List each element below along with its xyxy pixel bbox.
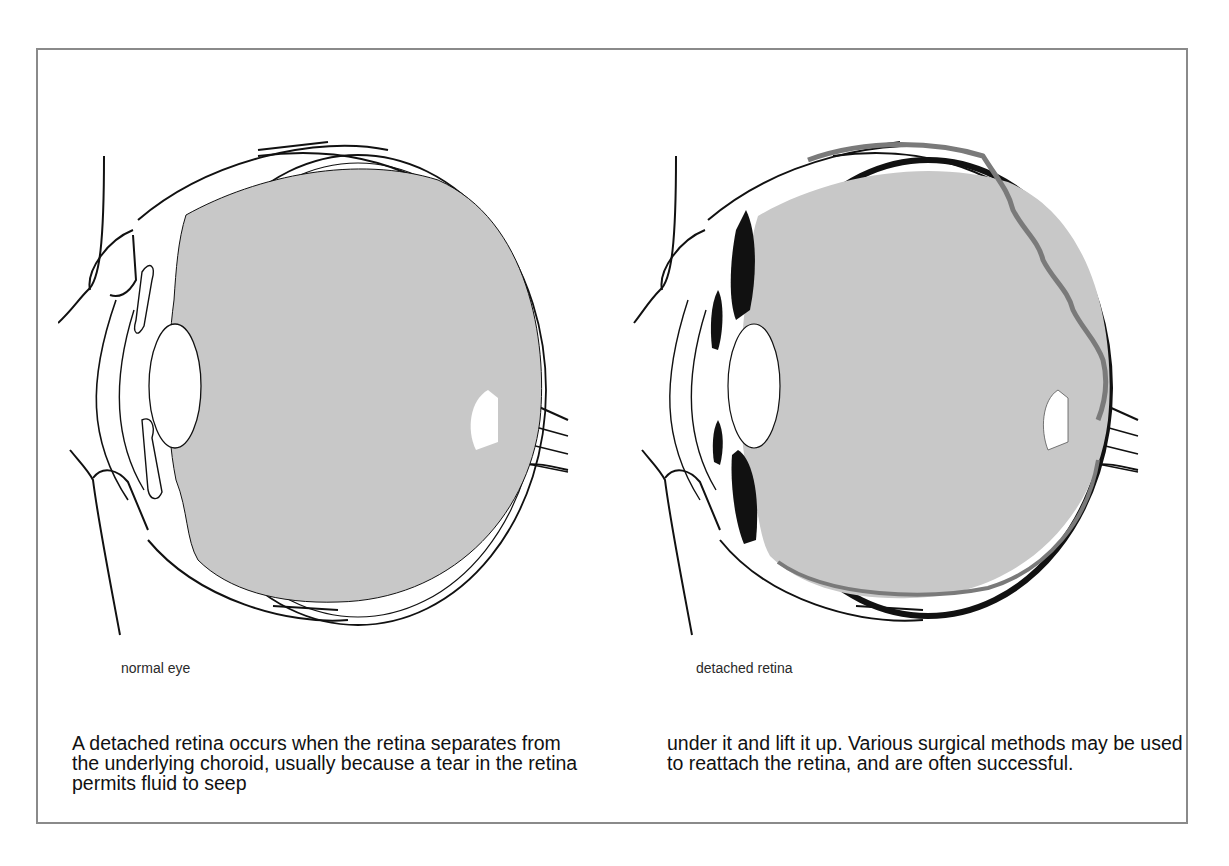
caption-normal-eye: normal eye — [121, 660, 190, 676]
caption-detached-retina: detached retina — [696, 660, 793, 676]
detached-retina-icon — [628, 120, 1188, 640]
description-right-column: under it and lift it up. Various surgica… — [667, 733, 1187, 773]
description-left-column: A detached retina occurs when the retina… — [72, 733, 592, 793]
normal-eye-figure — [58, 120, 618, 640]
normal-eye-icon — [58, 120, 618, 640]
detached-retina-figure — [628, 120, 1188, 640]
